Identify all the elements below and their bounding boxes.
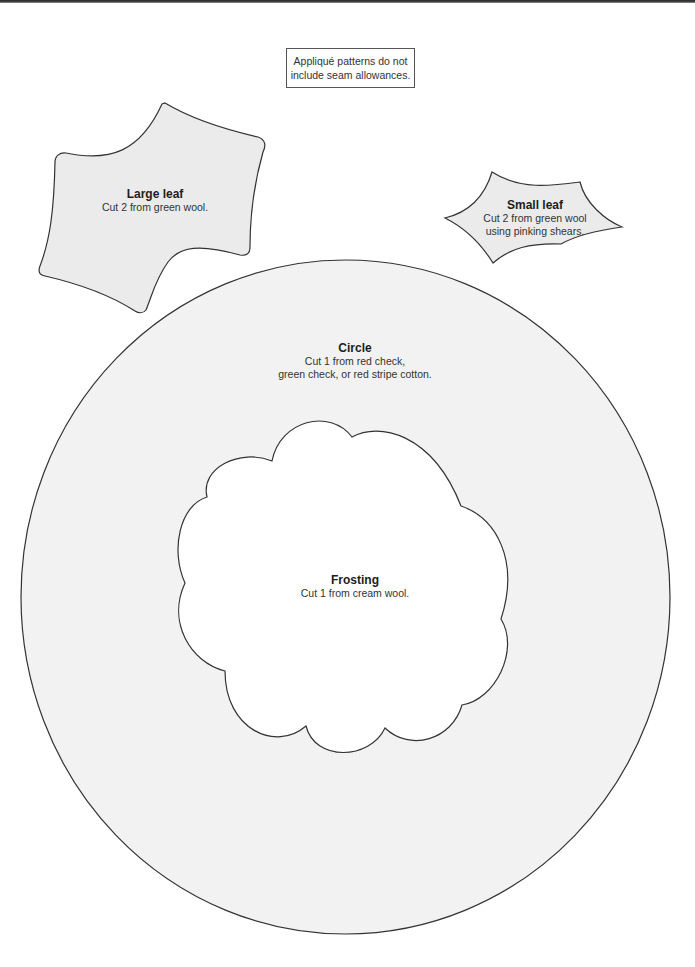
- circle-instruction-2: green check, or red stripe cotton.: [230, 368, 480, 381]
- pattern-sheet: [0, 0, 695, 967]
- frosting-title: Frosting: [270, 573, 440, 587]
- small-leaf-instruction-1: Cut 2 from green wool: [450, 212, 620, 225]
- large-leaf-label: Large leaf Cut 2 from green wool.: [70, 187, 240, 214]
- large-leaf-title: Large leaf: [70, 187, 240, 201]
- large-leaf-instruction: Cut 2 from green wool.: [70, 201, 240, 214]
- note-line-2: include seam allowances.: [287, 68, 414, 82]
- note-line-1: Appliqué patterns do not: [287, 54, 414, 68]
- seam-allowance-note: Appliqué patterns do not include seam al…: [286, 48, 415, 88]
- frosting-instruction: Cut 1 from cream wool.: [270, 587, 440, 600]
- small-leaf-label: Small leaf Cut 2 from green wool using p…: [450, 198, 620, 238]
- frosting-label: Frosting Cut 1 from cream wool.: [270, 573, 440, 600]
- circle-title: Circle: [230, 341, 480, 355]
- small-leaf-title: Small leaf: [450, 198, 620, 212]
- circle-label: Circle Cut 1 from red check, green check…: [230, 341, 480, 381]
- circle-instruction-1: Cut 1 from red check,: [230, 355, 480, 368]
- small-leaf-instruction-2: using pinking shears.: [450, 225, 620, 238]
